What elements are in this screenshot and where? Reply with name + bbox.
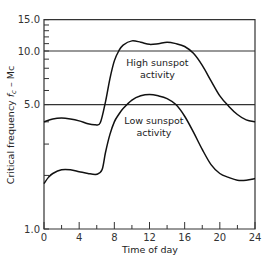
x-tick-label: 20 <box>213 232 226 243</box>
x-tick-label: 12 <box>143 232 156 243</box>
x-tick-label: 4 <box>76 232 82 243</box>
y-tick-label: 15.0 <box>18 14 40 25</box>
x-tick-label: 8 <box>111 232 117 243</box>
y-axis-label: Critical frequency fc – Mc <box>5 66 18 184</box>
x-tick-label: 16 <box>178 232 191 243</box>
low-sunspot-curve <box>44 94 255 183</box>
low-sunspot-label: activity <box>136 127 171 138</box>
high-sunspot-label: High sunspot <box>126 57 189 68</box>
y-tick-label: 5.0 <box>24 99 40 110</box>
y-tick-label: 10.0 <box>18 46 40 57</box>
x-axis-label: Time of day <box>121 244 178 255</box>
x-tick-label: 24 <box>249 232 262 243</box>
high-sunspot-curve <box>44 41 255 125</box>
x-tick-label: 0 <box>41 232 47 243</box>
y-tick-label: 1.0 <box>24 224 40 235</box>
annotations: High sunspotactivityLow sunspotactivity <box>124 57 189 137</box>
critical-frequency-chart: 1.05.010.015.004812162024 High sunspotac… <box>0 0 270 259</box>
low-sunspot-label: Low sunspot <box>124 115 184 126</box>
high-sunspot-label: activity <box>140 69 175 80</box>
